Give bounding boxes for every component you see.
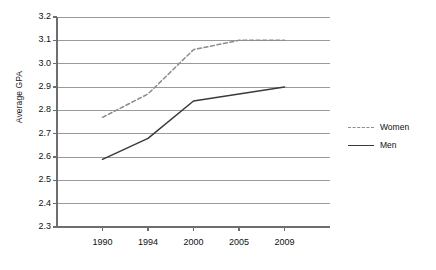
legend-item-women: Women — [348, 118, 434, 136]
x-tick-label: 2005 — [216, 238, 262, 247]
y-tick-label: 2.3 — [25, 222, 51, 231]
x-tick-label: 1994 — [125, 238, 171, 247]
y-tick-label: 3.2 — [25, 12, 51, 21]
x-tick-label: 2000 — [171, 238, 217, 247]
legend-item-men: Men — [348, 136, 434, 154]
y-tick-label: 2.4 — [25, 199, 51, 208]
legend-label-men: Men — [380, 140, 397, 150]
y-tick-label: 2.5 — [25, 175, 51, 184]
legend-label-women: Women — [380, 122, 409, 132]
y-tick-label: 2.9 — [25, 82, 51, 91]
series-line-women — [103, 40, 285, 117]
chart-container: Average GPA 3.23.13.02.92.82.72.62.52.42… — [0, 0, 436, 270]
series-line-men — [103, 87, 285, 159]
y-tick-label: 3.1 — [25, 35, 51, 44]
x-tick-label: 1990 — [80, 238, 126, 247]
y-tick-label: 2.8 — [25, 105, 51, 114]
y-tick-label: 3.0 — [25, 59, 51, 68]
chart-legend: Women Men — [348, 118, 434, 154]
legend-line-men-icon — [348, 141, 374, 149]
y-tick-label: 2.6 — [25, 152, 51, 161]
legend-line-women-icon — [348, 123, 374, 131]
y-tick-label: 2.7 — [25, 129, 51, 138]
x-tick-label: 2009 — [262, 238, 308, 247]
